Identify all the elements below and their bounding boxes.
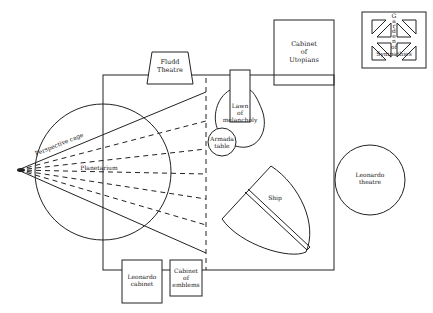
armada-label-2: table (214, 142, 230, 149)
perspective-ray-dash-5 (18, 170, 206, 225)
lawn-label-1: Lawn (232, 102, 249, 109)
fludd-theatre: Fludd Theatre (147, 52, 193, 84)
cabinet-emblems-label-3: emblems (172, 281, 199, 288)
garden-sympathies-label: Sympathies (376, 50, 411, 58)
armada-label-1: Armada (209, 135, 234, 142)
floor-plan-diagram: Fludd Theatre Cabinet of Utopians G a r … (0, 0, 433, 313)
perspective-ray-dash-4 (18, 170, 206, 199)
leonardo-cabinet: Leonardo cabinet (122, 260, 162, 303)
leonardo-theatre: Leonardo theatre (335, 145, 405, 215)
cabinet-utopians-label-1: Cabinet (291, 40, 317, 48)
leonardo-cabinet-label-2: cabinet (131, 280, 154, 287)
cabinet-utopians-label-3: Utopians (289, 56, 319, 64)
fludd-theatre-label-2: Theatre (157, 66, 183, 74)
garden-of-sympathies: G a r d e n of Sympathies (362, 12, 426, 68)
perspective-ray-bottom (18, 170, 206, 253)
fludd-theatre-label-1: Fludd (160, 58, 179, 66)
eye-icon (17, 168, 25, 172)
ship: Ship (222, 166, 310, 254)
cabinet-emblems-label-2: of (183, 274, 190, 281)
leonardo-theatre-label-2: theatre (359, 178, 382, 185)
leonardo-cabinet-label-1: Leonardo (128, 273, 157, 280)
planetarium-label: Planetarium (80, 164, 118, 171)
armada-table: Armada table (208, 128, 236, 156)
leonardo-theatre-label-1: Leonardo (356, 171, 385, 178)
cabinet-of-emblems: Cabinet of emblems (170, 260, 202, 296)
lawn-label-2: of (237, 109, 244, 116)
perspective-ray-top (18, 92, 206, 170)
ship-label: Ship (268, 194, 282, 202)
garden-of-label: of (391, 43, 398, 50)
lawn-label-3: melancholy (223, 116, 258, 124)
cabinet-utopians-label-2: of (301, 48, 308, 56)
cabinet-emblems-label-1: Cabinet (174, 267, 198, 274)
